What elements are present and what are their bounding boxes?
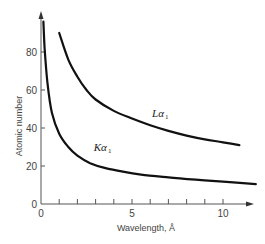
labels-group: Kα1Lα1 xyxy=(93,107,169,155)
series-group xyxy=(43,22,255,185)
x-axis-arrow-icon xyxy=(246,202,254,207)
chart: 0204060800510Wavelength, ÅAtomic number … xyxy=(0,0,265,244)
y-tick-label: 0 xyxy=(31,199,37,210)
series-line-k1 xyxy=(43,22,255,185)
y-axis-arrow-icon xyxy=(39,11,44,19)
y-tick-label: 40 xyxy=(26,123,38,134)
axes: 0204060800510Wavelength, ÅAtomic number xyxy=(14,11,254,233)
y-tick-label: 60 xyxy=(26,85,38,96)
y-axis-label: Atomic number xyxy=(14,96,24,157)
x-axis-label: Wavelength, Å xyxy=(117,223,175,233)
y-tick-label: 80 xyxy=(26,47,38,58)
series-line-l1 xyxy=(59,33,239,145)
series-label-l1: Lα1 xyxy=(151,107,169,121)
y-tick-label: 20 xyxy=(26,161,38,172)
x-tick-label: 0 xyxy=(38,208,44,219)
x-tick-label: 10 xyxy=(217,208,229,219)
series-label-k1: Kα1 xyxy=(93,141,112,155)
x-tick-label: 5 xyxy=(129,208,135,219)
